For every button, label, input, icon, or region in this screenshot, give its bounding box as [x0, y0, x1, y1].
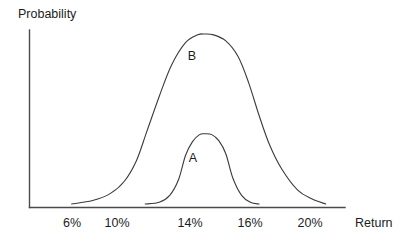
x-tick-label-4: 20% — [297, 216, 322, 230]
y-axis-title: Probability — [18, 7, 77, 21]
x-tick-label-3: 16% — [237, 216, 262, 230]
x-tick-label-0: 6% — [63, 216, 81, 230]
curve-a — [145, 134, 259, 204]
x-tick-label-2: 14% — [177, 216, 202, 230]
curve-a-label: A — [189, 151, 198, 165]
curve-b-label: B — [188, 49, 196, 63]
curve-b — [72, 34, 326, 204]
probability-return-chart: Probability Return 6% 10% 14% 16% 20% B … — [0, 0, 412, 241]
chart-canvas: Probability Return 6% 10% 14% 16% 20% B … — [0, 0, 412, 241]
x-axis-title: Return — [355, 216, 393, 230]
x-tick-label-1: 10% — [104, 216, 129, 230]
